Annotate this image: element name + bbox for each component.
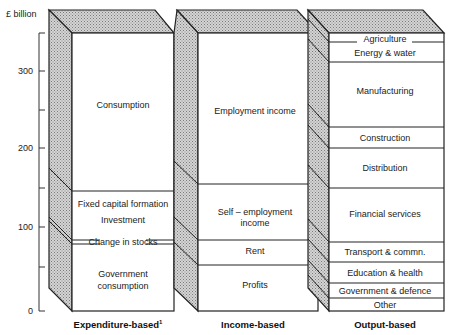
y-tick-0: 0 <box>28 306 33 316</box>
segment-self-employment-line1: Self – employment <box>218 207 293 217</box>
y-tick-200: 200 <box>18 143 33 153</box>
bar-income: Employment income Self – employment inco… <box>174 10 318 330</box>
segment-self-employment-line2: income <box>240 218 269 228</box>
segment-construction: Construction <box>360 133 411 143</box>
segment-financial-services: Financial services <box>349 209 421 219</box>
bar-output: Agriculture Energy & water Manufacturing… <box>308 10 444 330</box>
segment-government-consumption-line2: consumption <box>97 281 148 291</box>
y-tick-300: 300 <box>18 66 33 76</box>
category-output-label: Output-based <box>354 319 416 330</box>
segment-fixed-capital-formation: Fixed capital formation <box>78 199 169 209</box>
segment-distribution: Distribution <box>362 163 407 173</box>
segment-transport-commn: Transport & commn. <box>344 247 425 257</box>
segment-manufacturing: Manufacturing <box>356 86 413 96</box>
segment-government-consumption-line1: Government <box>98 269 148 279</box>
bar-expenditure: Consumption Fixed capital formation Inve… <box>49 10 174 330</box>
segment-other: Other <box>374 300 397 310</box>
segment-rent: Rent <box>245 246 265 256</box>
segment-education-health: Education & health <box>347 268 423 278</box>
segment-consumption: Consumption <box>96 100 149 110</box>
segment-investment: Investment <box>101 215 146 225</box>
segment-profits: Profits <box>242 280 268 290</box>
y-axis-unit-label: £ billion <box>6 9 37 19</box>
gdp-measures-chart: £ billion 0 100 200 300 Consumption Fixe… <box>0 0 457 335</box>
y-axis: £ billion 0 100 200 300 <box>6 9 45 316</box>
segment-government-defence: Government & defence <box>339 286 432 296</box>
category-income-label: Income-based <box>221 319 285 330</box>
segment-employment-income: Employment income <box>214 106 296 116</box>
segment-agriculture: Agriculture <box>363 34 406 44</box>
segment-change-in-stocks: Change in stocks <box>88 237 158 247</box>
y-tick-100: 100 <box>18 222 33 232</box>
segment-energy-water: Energy & water <box>354 48 416 58</box>
category-expenditure-label: Expenditure-based1 <box>74 319 164 330</box>
